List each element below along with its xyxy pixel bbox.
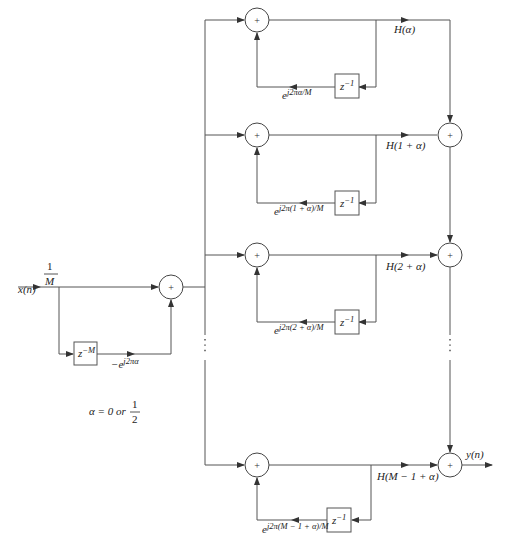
branch-2-coefficient: ej2π(2 + α)/M xyxy=(274,322,324,336)
branch-1: + H(1 + α) z−1 ej2π(1 + α)/M xyxy=(205,123,437,217)
branch-3-adder-plus: + xyxy=(254,460,260,471)
branch-m-minus-1: + H(M − 1 + α) z−1 ej2π(M − 1 + α)/M xyxy=(205,453,439,535)
branch-3-h-label: H(M − 1 + α) xyxy=(376,470,439,483)
comb-adder-plus: + xyxy=(168,282,174,293)
branch-0: + H(α) z−1 ej2πα/M xyxy=(205,8,450,122)
branch-0-h-label: H(α) xyxy=(393,23,415,36)
branch-1-adder-plus: + xyxy=(254,130,260,141)
branch-1-coefficient: ej2π(1 + α)/M xyxy=(274,203,324,217)
sum-adder-1-plus: + xyxy=(447,130,453,141)
alpha-frac-den: 2 xyxy=(132,413,138,425)
comb-coefficient: −ej2πα xyxy=(111,356,139,370)
output-label: y(n) xyxy=(465,448,484,461)
alpha-note: α = 0 or xyxy=(89,405,126,417)
summation-chain: + + + y(n) xyxy=(438,123,492,477)
sum-adder-final-plus: + xyxy=(447,460,453,471)
branch-2-adder-plus: + xyxy=(254,250,260,261)
branch-2: + H(2 + α) z−1 ej2π(2 + α)/M xyxy=(205,243,437,336)
frequency-sampling-filter-diagram: x(n) 1 M z−M −ej2πα + α = 0 or 1 2 xyxy=(0,0,505,550)
branch-3-coefficient: ej2π(M − 1 + α)/M xyxy=(262,521,330,535)
gain-numerator: 1 xyxy=(47,260,53,272)
branch-1-h-label: H(1 + α) xyxy=(385,139,426,152)
branch-0-adder-plus: + xyxy=(254,15,260,26)
sum-adder-2-plus: + xyxy=(447,250,453,261)
input-label: x(n) xyxy=(17,283,36,296)
branch-2-h-label: H(2 + α) xyxy=(385,260,426,273)
input-section: x(n) 1 M z−M −ej2πα + α = 0 or 1 2 xyxy=(17,260,205,425)
alpha-frac-num: 1 xyxy=(132,398,138,410)
branch-0-coefficient: ej2πα/M xyxy=(282,87,313,101)
gain-denominator: M xyxy=(44,275,55,287)
